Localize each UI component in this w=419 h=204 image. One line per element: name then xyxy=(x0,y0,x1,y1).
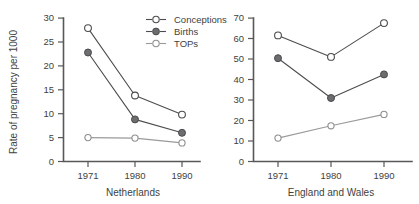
legend-label-tops: TOPs xyxy=(174,38,198,49)
left-panel-y-ticks: 0 5 10 15 20 25 30 xyxy=(43,12,63,166)
data-point xyxy=(381,71,388,78)
right-series-conceptions xyxy=(275,20,388,61)
left-xtick-1990: 1990 xyxy=(171,170,192,181)
left-xtick-1971: 1971 xyxy=(77,170,98,181)
data-point xyxy=(381,20,388,27)
data-point xyxy=(85,25,92,32)
legend-item-births: Births xyxy=(146,26,199,37)
legend-marker-open-circle xyxy=(153,16,159,22)
legend-item-tops: TOPs xyxy=(146,38,198,49)
legend-marker-open-circle xyxy=(153,40,159,46)
right-ytick-60: 60 xyxy=(233,33,244,44)
right-ytick-40: 40 xyxy=(233,74,244,85)
left-series-conceptions xyxy=(85,25,186,118)
legend: Conceptions Births TOPs xyxy=(146,14,227,49)
legend-label-conceptions: Conceptions xyxy=(174,14,227,25)
data-point xyxy=(132,116,139,123)
right-panel-x-ticks: 1971 1980 1990 xyxy=(267,162,394,182)
right-ytick-30: 30 xyxy=(233,94,244,105)
left-panel-caption: Netherlands xyxy=(106,187,160,198)
left-series-tops xyxy=(85,135,185,146)
data-point xyxy=(179,129,186,136)
left-panel-x-ticks: 1971 1980 1990 xyxy=(77,162,192,182)
right-series-tops xyxy=(275,111,387,141)
right-series-births xyxy=(275,55,388,102)
left-ytick-10: 10 xyxy=(43,108,54,119)
right-ytick-0: 0 xyxy=(239,156,244,167)
figure-container: Rate of pregnancy per 1000 0 5 10 15 20 … xyxy=(0,0,419,204)
right-panel-y-ticks: 0 10 20 30 40 50 60 70 xyxy=(233,12,253,166)
legend-item-conceptions: Conceptions xyxy=(146,14,227,25)
right-xtick-1971: 1971 xyxy=(267,170,288,181)
left-ytick-30: 30 xyxy=(43,12,54,23)
right-ytick-50: 50 xyxy=(233,53,244,64)
data-point xyxy=(381,111,387,117)
right-panel-caption: England and Wales xyxy=(288,187,374,198)
data-point xyxy=(85,135,91,141)
data-point xyxy=(328,95,335,102)
data-point xyxy=(179,111,186,118)
data-point xyxy=(275,32,282,39)
left-ytick-20: 20 xyxy=(43,60,54,71)
data-point xyxy=(132,92,139,99)
legend-label-births: Births xyxy=(174,26,199,37)
y-axis-label: Rate of pregnancy per 1000 xyxy=(8,30,19,154)
data-point xyxy=(275,135,281,141)
left-ytick-5: 5 xyxy=(49,132,54,143)
right-ytick-70: 70 xyxy=(233,12,244,23)
panel-england-and-wales: 0 10 20 30 40 50 60 70 1971 1980 1990 En… xyxy=(233,12,412,198)
left-ytick-25: 25 xyxy=(43,36,54,47)
data-point xyxy=(275,55,282,62)
right-xtick-1990: 1990 xyxy=(373,170,394,181)
right-ytick-20: 20 xyxy=(233,115,244,126)
data-point xyxy=(328,123,334,129)
data-point xyxy=(85,49,92,56)
left-ytick-15: 15 xyxy=(43,84,54,95)
data-point xyxy=(179,140,185,146)
left-ytick-0: 0 xyxy=(49,156,54,167)
legend-marker-filled-circle xyxy=(153,28,160,35)
data-point xyxy=(328,54,335,61)
right-ytick-10: 10 xyxy=(233,135,244,146)
data-point xyxy=(132,135,138,141)
right-xtick-1980: 1980 xyxy=(320,170,341,181)
chart-svg: Rate of pregnancy per 1000 0 5 10 15 20 … xyxy=(0,0,419,204)
left-xtick-1980: 1980 xyxy=(124,170,145,181)
